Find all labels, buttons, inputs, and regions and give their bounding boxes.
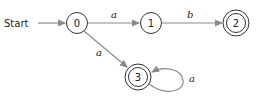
automaton-diagram: Start a b a a 0 1 2 3: [0, 0, 266, 107]
state-0: 0: [67, 13, 88, 34]
state-1: 1: [141, 13, 162, 34]
state-2-label: 2: [233, 18, 239, 29]
state-3-accepting: 3: [125, 64, 151, 90]
state-2-accepting: 2: [223, 10, 249, 36]
state-0-label: 0: [74, 18, 80, 29]
state-3-label: 3: [135, 72, 141, 83]
start-label: Start: [4, 18, 29, 29]
state-1-label: 1: [148, 18, 154, 29]
edge-0-3: [84, 31, 127, 67]
edge-3-3-loop: [149, 69, 183, 92]
edge-label-1-2: b: [187, 9, 193, 20]
edge-label-0-3: a: [96, 47, 102, 58]
edge-label-0-1: a: [111, 9, 117, 20]
edge-label-3-3: a: [189, 73, 195, 84]
